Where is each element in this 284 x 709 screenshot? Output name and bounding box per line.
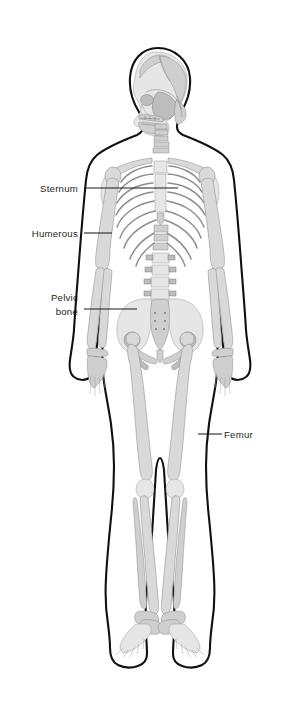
label-pelvic-bone-line2: bone <box>56 306 78 317</box>
thoracic-spine-group <box>153 225 168 250</box>
sacral-foramen-1 <box>154 312 156 314</box>
sacral-foramen-3 <box>154 320 156 322</box>
skull-group <box>133 52 187 136</box>
femoral-head-left <box>126 332 140 346</box>
cervical-vertebra-1 <box>155 124 167 129</box>
sacral-foramen-2 <box>164 312 166 314</box>
cervical-spine-group <box>153 124 169 153</box>
thoracic-vertebra-2 <box>154 234 168 241</box>
sacral-foramen-5 <box>155 328 157 330</box>
cervical-vertebra-4 <box>154 142 169 147</box>
femoral-head-right <box>180 332 194 346</box>
cervical-vertebra-3 <box>154 136 168 141</box>
thoracic-vertebra-1 <box>154 225 168 232</box>
manubrium <box>154 161 167 173</box>
label-sternum: Sternum <box>40 183 78 194</box>
sternum-body <box>155 174 166 212</box>
label-femur: Femur <box>224 429 254 440</box>
cervical-vertebra-5 <box>153 148 169 153</box>
label-pelvic-bone-line1: Pelvic <box>51 292 78 303</box>
sacral-foramen-6 <box>163 328 165 330</box>
thoracic-vertebra-3 <box>153 243 168 250</box>
label-humerous: Humerous <box>32 228 78 239</box>
skeleton-illustration: Sternum Humerous Pelvic bone Femur <box>0 0 284 709</box>
anatomy-diagram: Sternum Humerous Pelvic bone Femur <box>0 0 284 709</box>
cervical-vertebra-2 <box>155 130 168 135</box>
sacral-foramen-4 <box>164 320 166 322</box>
orbit <box>141 95 154 106</box>
